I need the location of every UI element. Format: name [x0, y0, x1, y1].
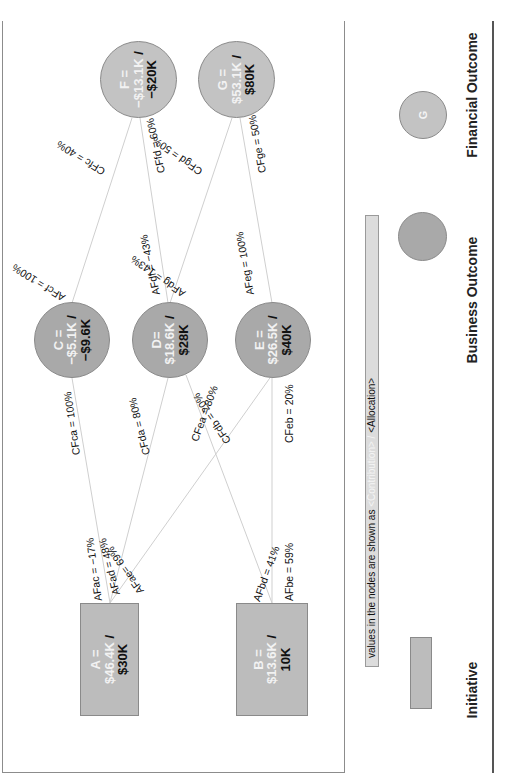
node-b-allocation: 10K	[279, 648, 293, 672]
legend-financial-label: Financial Outcome	[464, 32, 480, 157]
node-f[interactable]: F = −$13.1K / −$20K	[100, 41, 177, 118]
legend-business-swatch	[398, 212, 447, 261]
legend-financial-swatch: G	[399, 91, 447, 139]
node-a-contribution: $46.4K /	[103, 635, 117, 684]
node-d[interactable]: D= $18.6K / $28K	[132, 302, 208, 378]
rotated-page: A = $46.4K / $30K B = $13.6K / 10K C = −…	[0, 0, 505, 773]
node-c-contribution: −$5.1K /	[65, 315, 79, 365]
node-g-contribution: $53.1K /	[230, 55, 244, 104]
node-b-label: B =	[252, 649, 266, 670]
legend-note-bar: values in the nodes are shown as <Contri…	[365, 215, 379, 667]
node-a-allocation: $30K	[116, 644, 130, 675]
node-c[interactable]: C = −$5.1K / −$9.6K	[34, 302, 110, 378]
node-e-allocation: $40K	[280, 324, 294, 355]
node-g[interactable]: G = $53.1K / $80K	[198, 41, 275, 118]
node-b[interactable]: B = $13.6K / 10K	[236, 603, 308, 716]
node-f-allocation: −$20K	[145, 60, 159, 99]
node-a[interactable]: A = $46.4K / $30K	[80, 603, 139, 716]
edge-label-afbe: AFbe = 59%	[283, 543, 295, 601]
legend-initiative-label: Initiative	[464, 662, 480, 719]
node-g-label: G =	[216, 69, 230, 90]
node-e-contribution: $26.5K /	[266, 315, 280, 364]
node-d-label: D=	[150, 332, 164, 349]
legend-business-label: Business Outcome	[464, 237, 480, 364]
node-b-contribution: $13.6K /	[265, 635, 279, 684]
node-c-label: C =	[52, 330, 66, 351]
edge-label-cfeb: CFeb = 20%	[283, 384, 295, 443]
legend-note-prefix: values in the nodes are shown as	[366, 507, 377, 658]
legend-note-allocation: <Allocation>	[366, 378, 377, 433]
node-c-allocation: −$9.6K	[79, 319, 93, 361]
node-f-contribution: −$13.1K /	[132, 51, 146, 108]
legend-financial-symbol: G	[417, 111, 429, 120]
legend-note-contribution: <Contribution>	[366, 441, 377, 507]
node-e-label: E =	[253, 330, 267, 350]
node-f-label: F =	[118, 70, 132, 89]
legend-note-sep: /	[366, 433, 377, 441]
node-a-label: A =	[89, 649, 103, 669]
node-e[interactable]: E = $26.5K / $40K	[235, 302, 311, 378]
node-g-allocation: $80K	[243, 64, 257, 95]
node-d-allocation: $28K	[177, 324, 191, 355]
node-d-contribution: $18.6K /	[163, 315, 177, 364]
legend-initiative-swatch	[410, 637, 432, 709]
